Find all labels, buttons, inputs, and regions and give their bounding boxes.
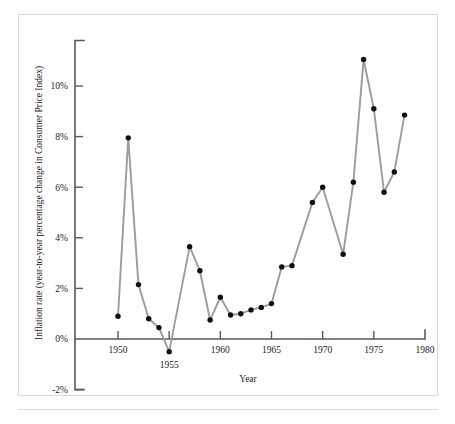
y-tick-label: 4%	[55, 233, 68, 243]
data-point-marker	[136, 282, 141, 287]
data-point-marker	[392, 169, 397, 174]
x-tick-label: 1955	[160, 360, 179, 370]
data-point-marker	[248, 307, 253, 312]
axes-group	[75, 40, 425, 389]
data-point-marker	[310, 200, 315, 205]
data-point-marker	[126, 135, 131, 140]
data-point-marker	[381, 190, 386, 195]
data-point-marker	[279, 264, 284, 269]
data-point-marker	[259, 305, 264, 310]
data-point-marker	[361, 57, 366, 62]
y-tick-label: 2%	[55, 284, 68, 294]
data-point-marker	[115, 314, 120, 319]
x-axis-line	[75, 330, 425, 339]
data-point-marker	[402, 112, 407, 117]
x-tick-labels-group: 1950195519601965197019751980	[109, 345, 435, 370]
y-tick-label: 10%	[51, 81, 69, 91]
data-point-marker	[218, 295, 223, 300]
data-point-marker	[320, 185, 325, 190]
x-tick-label: 1950	[109, 345, 128, 355]
data-point-marker	[340, 252, 345, 257]
data-point-marker	[289, 263, 294, 268]
y-tick-label: 6%	[55, 183, 68, 193]
data-point-marker	[371, 106, 376, 111]
data-point-marker	[187, 244, 192, 249]
inflation-line-chart: -2%0%2%4%6%8%10% 19501955196019651970197…	[0, 0, 455, 424]
data-point-marker	[197, 268, 202, 273]
y-tick-labels-group: -2%0%2%4%6%8%10%	[51, 81, 69, 395]
data-point-marker	[166, 349, 171, 354]
data-point-marker	[207, 317, 212, 322]
figure-root: -2%0%2%4%6%8%10% 19501955196019651970197…	[0, 0, 455, 424]
data-point-marker	[351, 179, 356, 184]
x-tick-label: 1975	[364, 345, 383, 355]
x-tick-label: 1965	[262, 345, 281, 355]
y-tick-label: 0%	[55, 334, 68, 344]
data-point-marker	[238, 311, 243, 316]
y-tick-label: -2%	[52, 385, 68, 395]
x-tick-label: 1960	[211, 345, 230, 355]
data-point-marker	[269, 301, 274, 306]
x-axis-title: Year	[239, 374, 257, 384]
data-point-marker	[146, 316, 151, 321]
y-axis-title: Inflation rate (year-to-year percentage …	[34, 66, 45, 340]
data-point-marker	[156, 325, 161, 330]
data-markers-group	[115, 57, 407, 355]
data-point-marker	[228, 312, 233, 317]
y-axis-line	[75, 40, 84, 389]
x-tick-label: 1970	[313, 345, 332, 355]
x-tick-label: 1980	[416, 345, 435, 355]
y-tick-label: 8%	[55, 132, 68, 142]
